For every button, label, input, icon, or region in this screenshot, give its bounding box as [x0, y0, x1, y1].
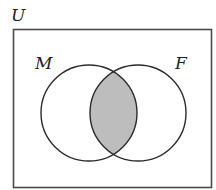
universe-label: U [11, 5, 26, 25]
venn-diagram: U M F [0, 0, 216, 190]
set-m-label: M [34, 53, 53, 73]
set-f-label: F [174, 53, 188, 73]
